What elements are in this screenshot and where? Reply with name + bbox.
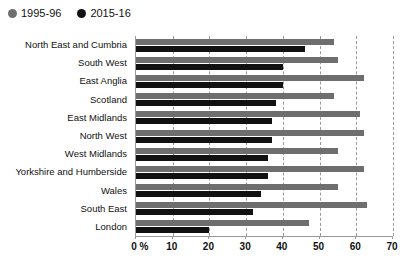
x-tick bbox=[319, 236, 320, 239]
category-label: North West bbox=[0, 127, 131, 145]
bar-row bbox=[136, 54, 393, 72]
x-tick-label: 40 bbox=[276, 241, 287, 252]
x-tick-label: 50 bbox=[313, 241, 324, 252]
category-label: West Midlands bbox=[0, 145, 131, 163]
bar-series-2 bbox=[136, 191, 261, 197]
bar-series-1 bbox=[136, 148, 338, 154]
category-label: East Anglia bbox=[0, 72, 131, 90]
x-tick-label: 70 bbox=[386, 241, 397, 252]
bar-row bbox=[136, 200, 393, 218]
bar-series-2 bbox=[136, 227, 209, 233]
bar-series-2 bbox=[136, 100, 276, 106]
bar-series-2 bbox=[136, 118, 272, 124]
bar-series-2 bbox=[136, 155, 268, 161]
bar-series-1 bbox=[136, 39, 334, 45]
bar-series-1 bbox=[136, 220, 309, 226]
bar-series-1 bbox=[136, 111, 360, 117]
circle-marker-icon bbox=[77, 9, 86, 18]
bar-row bbox=[136, 163, 393, 181]
legend-label: 2015-16 bbox=[90, 8, 130, 19]
x-tick bbox=[135, 236, 136, 239]
x-tick bbox=[392, 236, 393, 239]
chart-legend: 1995-96 2015-16 bbox=[8, 5, 131, 21]
bar-series-1 bbox=[136, 93, 334, 99]
bar-series-2 bbox=[136, 137, 272, 143]
circle-marker-icon bbox=[8, 9, 17, 18]
x-tick bbox=[282, 236, 283, 239]
x-axis: 0 %10203040506070 bbox=[135, 236, 392, 266]
bar-rows bbox=[136, 36, 393, 236]
bar-row bbox=[136, 127, 393, 145]
bar-row bbox=[136, 109, 393, 127]
bar-series-2 bbox=[136, 209, 253, 215]
x-tick-label: 20 bbox=[203, 241, 214, 252]
bar-row bbox=[136, 72, 393, 90]
bar-row bbox=[136, 36, 393, 54]
bar-row bbox=[136, 145, 393, 163]
bar-series-2 bbox=[136, 46, 305, 52]
x-tick bbox=[355, 236, 356, 239]
bar-row bbox=[136, 91, 393, 109]
legend-label: 1995-96 bbox=[21, 8, 61, 19]
bar-series-1 bbox=[136, 166, 364, 172]
plot-area bbox=[135, 36, 393, 236]
bar-series-1 bbox=[136, 184, 338, 190]
x-tick-label: 0 % bbox=[131, 241, 148, 252]
bar-series-1 bbox=[136, 75, 364, 81]
plot-wrapper: North East and CumbriaSouth WestEast Ang… bbox=[0, 36, 415, 266]
x-tick bbox=[172, 236, 173, 239]
legend-item-2015-16: 2015-16 bbox=[77, 8, 130, 19]
bar-row bbox=[136, 218, 393, 236]
x-tick bbox=[245, 236, 246, 239]
y-axis-category-labels: North East and CumbriaSouth WestEast Ang… bbox=[0, 36, 131, 236]
x-tick-label: 30 bbox=[240, 241, 251, 252]
legend-item-1995-96: 1995-96 bbox=[8, 8, 61, 19]
category-label: North East and Cumbria bbox=[0, 36, 131, 54]
category-label: London bbox=[0, 218, 131, 236]
bar-series-2 bbox=[136, 82, 283, 88]
bar-series-2 bbox=[136, 173, 268, 179]
bar-series-1 bbox=[136, 202, 367, 208]
bar-series-1 bbox=[136, 130, 364, 136]
category-label: South West bbox=[0, 54, 131, 72]
category-label: Scotland bbox=[0, 91, 131, 109]
category-label: Wales bbox=[0, 182, 131, 200]
bar-chart: 1995-96 2015-16 North East and CumbriaSo… bbox=[0, 0, 415, 266]
x-tick bbox=[208, 236, 209, 239]
bar-row bbox=[136, 182, 393, 200]
category-label: Yorkshire and Humberside bbox=[0, 163, 131, 181]
bar-series-2 bbox=[136, 64, 283, 70]
gridline bbox=[393, 36, 394, 236]
x-tick-label: 10 bbox=[166, 241, 177, 252]
category-label: East Midlands bbox=[0, 109, 131, 127]
bar-series-1 bbox=[136, 57, 338, 63]
category-label: South East bbox=[0, 200, 131, 218]
x-tick-label: 60 bbox=[350, 241, 361, 252]
x-axis-line bbox=[135, 236, 392, 237]
